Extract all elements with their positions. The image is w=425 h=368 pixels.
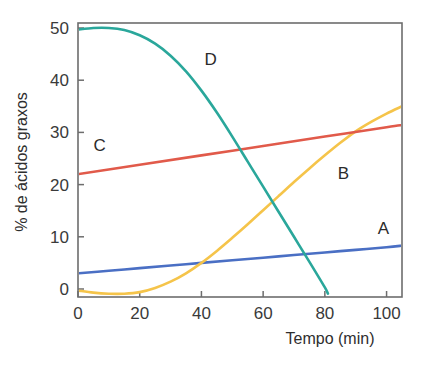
- series-label-d: D: [205, 50, 217, 69]
- x-tick-label: 0: [73, 304, 82, 323]
- y-tick-label: 10: [50, 228, 69, 247]
- x-axis-title: Tempo (min): [286, 330, 375, 347]
- y-axis-title: % de ácidos graxos: [13, 92, 30, 232]
- line-chart: 020406080100 01020304050 ABCD Tempo (min…: [0, 0, 425, 368]
- y-tick-label: 30: [50, 123, 69, 142]
- x-tick-label: 100: [372, 304, 400, 323]
- x-tick-label: 40: [192, 304, 211, 323]
- series-label-c: C: [93, 136, 105, 155]
- y-tick-label: 0: [60, 280, 69, 299]
- x-tick-label: 60: [254, 304, 273, 323]
- chart-figure: 020406080100 01020304050 ABCD Tempo (min…: [0, 0, 425, 368]
- series-label-a: A: [378, 219, 390, 238]
- y-tick-label: 40: [50, 71, 69, 90]
- y-tick-label: 20: [50, 176, 69, 195]
- x-tick-label: 80: [315, 304, 334, 323]
- x-tick-label: 20: [130, 304, 149, 323]
- series-label-b: B: [338, 164, 349, 183]
- y-tick-label: 50: [50, 19, 69, 38]
